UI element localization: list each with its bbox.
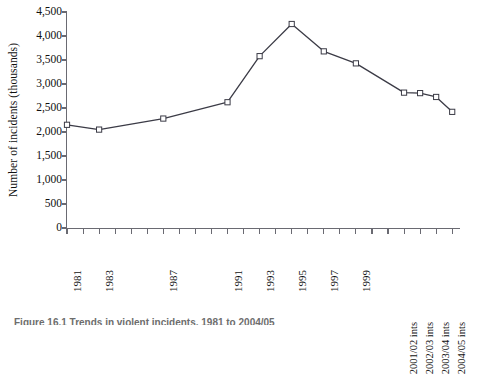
data-point-marker [450,109,455,114]
x-tick-label: 2001/02 ints [408,322,419,374]
figure-caption: Figure 16.1 Trends in violent incidents,… [14,317,464,325]
x-tick-label: 1999 [360,270,372,292]
chart-axes [62,12,461,234]
data-series-violent-incidents [67,24,452,130]
data-point-marker [418,91,423,96]
x-tick-label: 2002/03 ints [424,322,435,374]
line-chart-svg [0,0,481,240]
data-point-marker [289,21,294,26]
data-point-marker [161,116,166,121]
data-point-marker [434,94,439,99]
x-tick-label: 1993 [264,270,276,292]
data-point-markers [64,21,454,132]
data-point-marker [353,61,358,66]
data-point-marker [257,54,262,59]
data-point-marker [64,122,69,127]
x-tick-label: 2003/04 ints [440,322,451,374]
series-line [67,24,452,130]
x-tick-label: 2004/05 ints [456,322,467,374]
plot-area [0,0,481,240]
x-tick-label: 1997 [328,270,340,292]
data-point-marker [401,90,406,95]
data-point-marker [321,49,326,54]
x-tick-label: 1987 [167,270,179,292]
data-point-marker [97,127,102,132]
data-point-marker [225,100,230,105]
x-tick-label: 1981 [71,270,83,292]
x-tick-label: 1991 [232,270,244,292]
x-tick-label: 1995 [296,270,308,292]
x-axis-tick-labels: 198119831987199119931995199719992001/02 … [0,230,481,325]
x-tick-label: 1983 [103,270,115,292]
